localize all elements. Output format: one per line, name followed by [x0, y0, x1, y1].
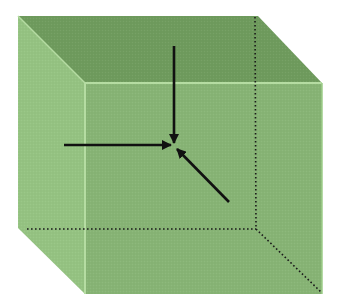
cube-texture: [18, 16, 322, 294]
cube-diagram: [0, 0, 339, 306]
